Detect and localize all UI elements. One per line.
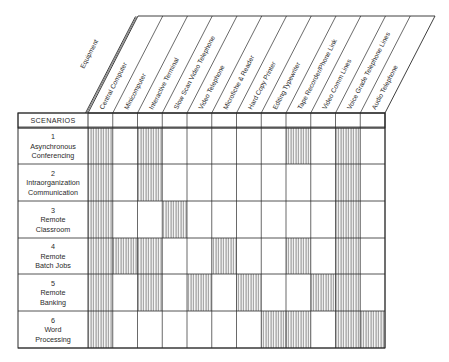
svg-text:Communication: Communication <box>28 188 78 197</box>
svg-text:1: 1 <box>51 132 55 141</box>
required-cell <box>88 311 113 348</box>
required-cell <box>138 164 163 201</box>
column-label: Audio Telephone <box>370 63 400 111</box>
required-cell <box>88 274 113 311</box>
svg-text:6: 6 <box>51 316 55 325</box>
required-cell <box>311 274 336 311</box>
required-cell <box>360 311 385 348</box>
equipment-label: Equipment <box>79 38 101 70</box>
required-cell <box>138 274 163 311</box>
required-cell <box>187 274 212 311</box>
column-label: Voice Grade Telephone Lines <box>346 30 393 111</box>
column-label: Slow Scan Video Telephone <box>172 34 217 111</box>
svg-text:Intraorganization: Intraorganization <box>26 178 80 187</box>
required-cell <box>88 164 113 201</box>
equipment-header-band: Central ComputerMinicomputerInteractive … <box>79 16 435 113</box>
svg-text:2: 2 <box>51 169 55 178</box>
column-label: Video Telephone <box>197 63 227 110</box>
required-cell <box>336 128 361 164</box>
required-cell <box>336 201 361 238</box>
svg-text:Classroom: Classroom <box>36 225 70 234</box>
svg-text:Remote: Remote <box>40 215 65 224</box>
svg-text:Banking: Banking <box>40 298 66 307</box>
scenario-label: 4RemoteBatch Jobs <box>35 242 71 270</box>
required-cell <box>113 238 138 274</box>
svg-text:Remote: Remote <box>40 252 65 261</box>
required-cell <box>336 274 361 311</box>
required-cell <box>88 128 113 164</box>
required-cell <box>336 238 361 274</box>
scenario-label: 1AsynchronousConferencing <box>30 132 76 160</box>
svg-text:Remote: Remote <box>40 288 65 297</box>
required-cell <box>138 238 163 274</box>
required-cell <box>237 274 262 311</box>
svg-text:4: 4 <box>51 242 55 251</box>
required-cell <box>286 238 311 274</box>
scenario-label: 3RemoteClassroom <box>36 206 70 234</box>
required-cell <box>88 201 113 238</box>
column-label: Minicomputer <box>123 71 149 111</box>
required-cell <box>336 311 361 348</box>
required-cell <box>286 128 311 164</box>
required-cell <box>162 201 187 238</box>
scenario-label: 6WordProcessing <box>35 316 71 344</box>
svg-text:Asynchronous: Asynchronous <box>30 142 76 151</box>
svg-text:3: 3 <box>51 206 55 215</box>
scenario-label: 5RemoteBanking <box>40 279 66 307</box>
required-cell <box>88 238 113 274</box>
scenarios-header: SCENARIOS <box>30 116 75 125</box>
svg-text:Word: Word <box>44 325 61 334</box>
required-cell <box>138 128 163 164</box>
required-cell <box>212 238 237 274</box>
required-cell <box>286 311 311 348</box>
svg-text:Conferencing: Conferencing <box>32 151 75 160</box>
scenario-label: 2IntraorganizationCommunication <box>26 169 80 197</box>
required-cell <box>336 164 361 201</box>
svg-text:Processing: Processing <box>35 335 71 344</box>
svg-text:5: 5 <box>51 279 55 288</box>
svg-text:Batch Jobs: Batch Jobs <box>35 261 71 270</box>
required-cell <box>261 311 286 348</box>
equipment-scenario-matrix: Central ComputerMinicomputerInteractive … <box>0 0 449 362</box>
scenario-labels: SCENARIOS1AsynchronousConferencing2Intra… <box>26 116 80 344</box>
